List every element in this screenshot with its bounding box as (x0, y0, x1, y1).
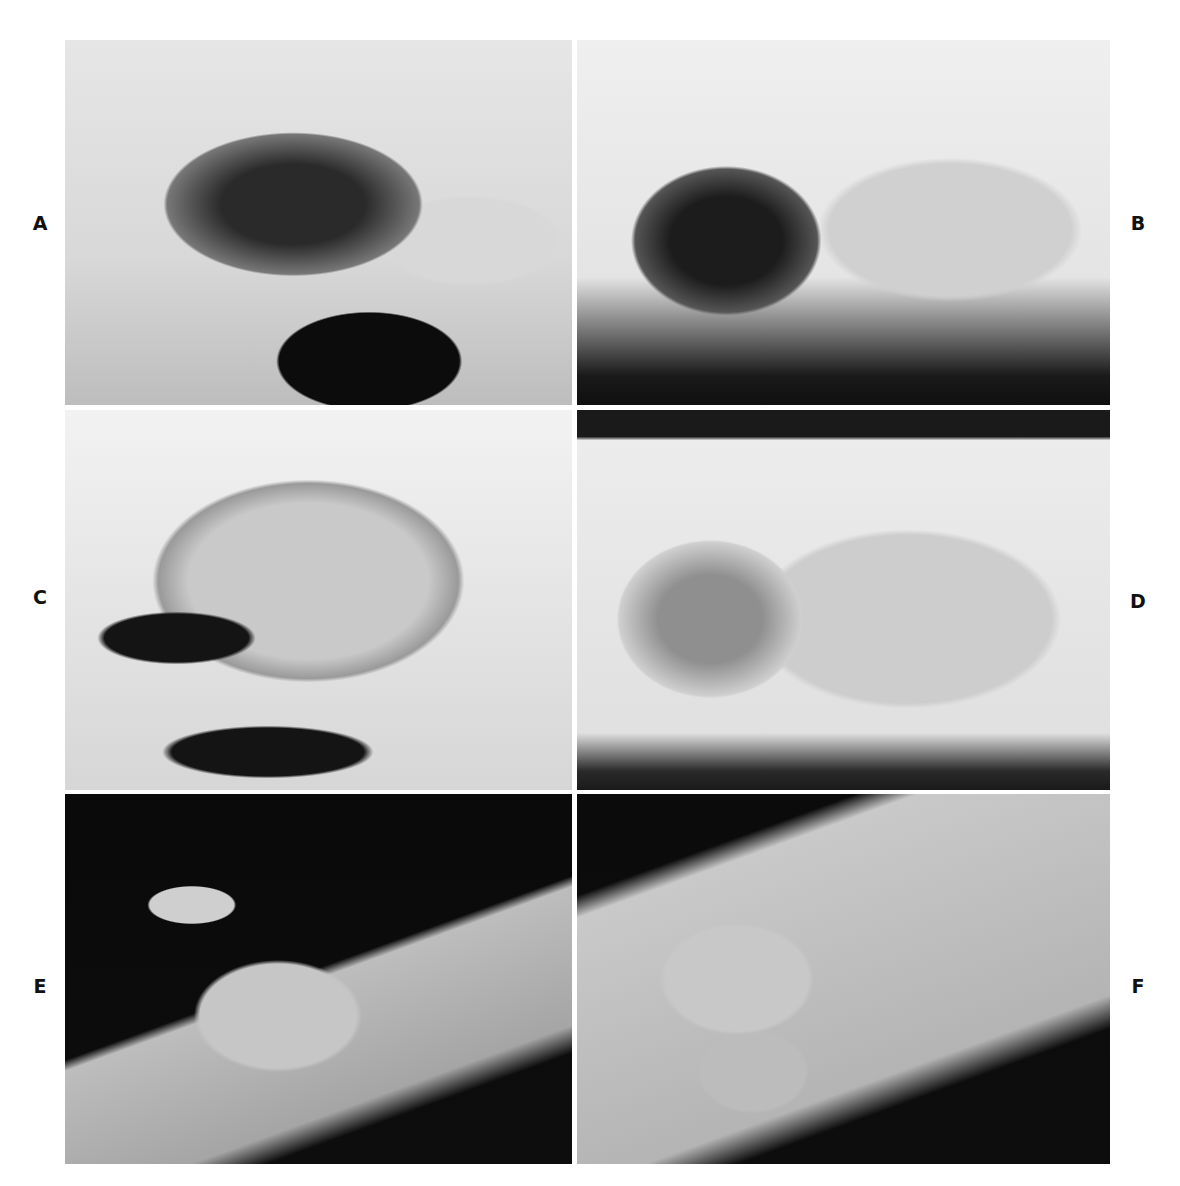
panel-label-b: B (1126, 212, 1150, 234)
photo-panel-c (65, 410, 572, 790)
photo-mangled-hand-palmar (577, 40, 1110, 405)
photo-panel-e (65, 794, 572, 1164)
panel-label-d: D (1126, 590, 1150, 612)
panel-label-e: E (28, 975, 52, 997)
photo-sutured-hand-palmar (577, 410, 1110, 790)
panel-label-c: C (28, 586, 52, 608)
photo-mangled-hand-dorsal (65, 40, 572, 405)
photo-healed-hand-lateral (65, 794, 572, 1164)
photo-healed-hand-palmar (577, 794, 1110, 1164)
photo-panel-f (577, 794, 1110, 1164)
photo-sutured-hand-dorsal (65, 410, 572, 790)
panel-label-f: F (1126, 975, 1150, 997)
photo-panel-b (577, 40, 1110, 405)
photo-panel-a (65, 40, 572, 405)
photo-panel-d (577, 410, 1110, 790)
panel-label-a: A (28, 212, 52, 234)
